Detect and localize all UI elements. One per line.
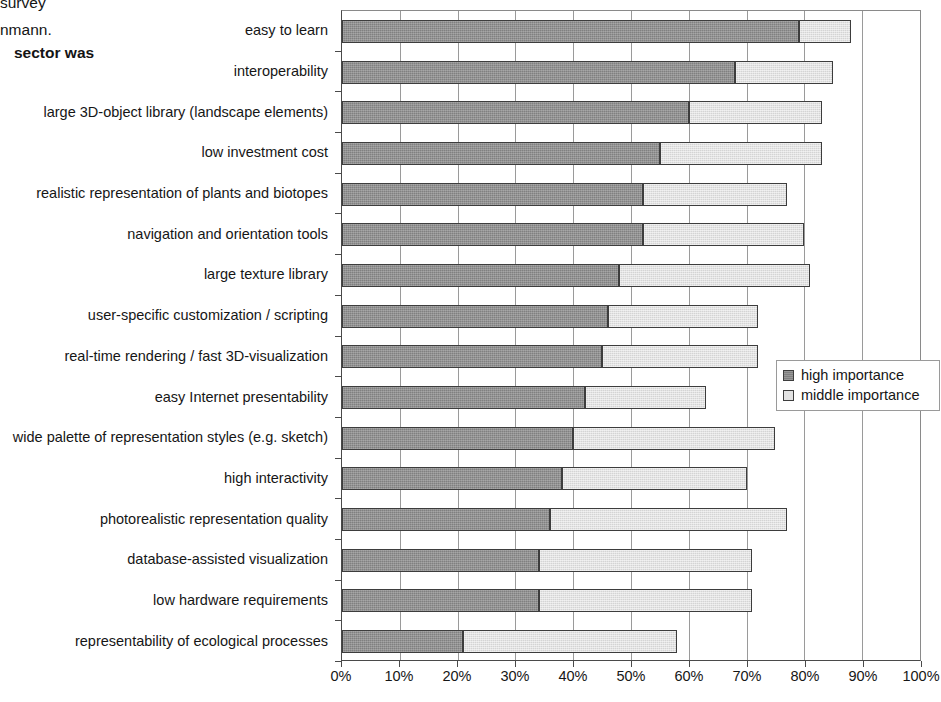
bar-row [342,549,920,572]
value-axis-tick-label: 20% [442,667,471,685]
bar-row [342,427,920,450]
bar-segment [573,427,775,450]
category-axis-tick-label: database-assisted visualization [127,551,328,567]
value-axis-tick-mark [921,661,922,667]
category-axis-tick-mark [335,132,341,133]
value-axis-tick-label: 90% [848,667,877,685]
bar-group [342,549,920,572]
bar-segment [342,101,689,124]
bar-group [342,101,920,124]
category-axis-tick-label: real-time rendering / fast 3D-visualizat… [64,348,328,364]
category-axis-tick-mark [335,539,341,540]
bar-group [342,427,920,450]
category-axis-tick-label: photorealistic representation quality [100,511,328,527]
bar-segment [342,20,799,43]
bar-segment [585,386,706,409]
value-axis-tick-label: 80% [790,667,819,685]
category-axis-tick-mark [335,417,341,418]
bar-row [342,467,920,490]
category-axis-tick-mark [335,580,341,581]
bar-group [342,508,920,531]
legend-item-high-importance: high importance [783,365,933,385]
category-axis-tick-label: interoperability [234,63,328,79]
category-axis-tick-label: large texture library [204,266,328,282]
category-axis-tick-label: low hardware requirements [153,592,328,608]
bar-segment [342,305,608,328]
category-axis-tick-mark [335,376,341,377]
bar-row [342,183,920,206]
bar-segment [799,20,851,43]
bar-row [342,508,920,531]
category-axis-tick-mark [335,620,341,621]
value-axis-tick-mark [747,661,748,667]
middle-importance-swatch-icon [783,390,794,401]
value-axis-tick-mark [863,661,864,667]
bar-row [342,305,920,328]
bar-row [342,264,920,287]
category-axis-tick-mark [335,254,341,255]
bar-segment [342,61,735,84]
value-axis-tick-label: 70% [732,667,761,685]
category-axis-tick-mark [335,458,341,459]
bar-group [342,183,920,206]
bar-segment [539,549,753,572]
category-axis-tick-label: representability of ecological processes [75,633,328,649]
bar-group [342,20,920,43]
bar-segment [342,630,463,653]
bar-segment [643,223,805,246]
bar-row [342,142,920,165]
category-axis-tick-label: user-specific customization / scripting [88,307,328,323]
bar-segment [342,142,660,165]
bar-segment [562,467,747,490]
category-axis-tick-mark [335,213,341,214]
category-axis-tick-mark [335,91,341,92]
bar-group [342,467,920,490]
value-axis-tick-label: 40% [558,667,587,685]
bar-row [342,223,920,246]
value-axis-tick-label: 50% [616,667,645,685]
legend-item-middle-importance: middle importance [783,385,933,405]
value-axis-tick-label: 60% [674,667,703,685]
legend-label: middle importance [801,387,919,403]
bar-segment [660,142,822,165]
category-axis-tick-label: wide palette of representation styles (e… [13,429,328,445]
bar-segment [342,508,550,531]
category-axis-tick-mark [335,498,341,499]
bar-segment [342,345,602,368]
stacked-bar-chart: easy to learninteroperabilitylarge 3D-ob… [0,0,941,702]
bar-segment [550,508,787,531]
bar-group [342,305,920,328]
bar-group [342,61,920,84]
value-axis-labels: 0%10%20%30%40%50%60%70%80%90%100% [0,667,941,693]
bar-group [342,589,920,612]
bar-segment [342,223,643,246]
bar-segment [342,386,585,409]
bar-segment [735,61,833,84]
value-axis-tick-label: 10% [384,667,413,685]
category-axis-tick-label: low investment cost [201,144,328,160]
bar-group [342,223,920,246]
bar-segment [342,467,562,490]
bar-segment [342,427,573,450]
bar-row [342,61,920,84]
value-axis-tick-mark [689,661,690,667]
value-axis-tick-mark [631,661,632,667]
category-axis-tick-label: large 3D-object library (landscape eleme… [44,104,329,120]
bar-group [342,630,920,653]
chart-legend: high importance middle importance [776,360,940,411]
category-axis-labels: easy to learninteroperabilitylarge 3D-ob… [0,10,336,661]
category-axis-tick-label: realistic representation of plants and b… [36,185,328,201]
bar-group [342,142,920,165]
bar-segment [619,264,810,287]
value-axis-tick-mark [399,661,400,667]
value-axis-tick-mark [515,661,516,667]
value-axis-tick-label: 30% [500,667,529,685]
bar-segment [342,264,619,287]
bar-row [342,20,920,43]
bar-segment [342,549,539,572]
value-axis-tick-mark [457,661,458,667]
bar-segment [463,630,677,653]
bar-segment [602,345,758,368]
high-importance-swatch-icon [783,370,794,381]
bar-segment [608,305,758,328]
